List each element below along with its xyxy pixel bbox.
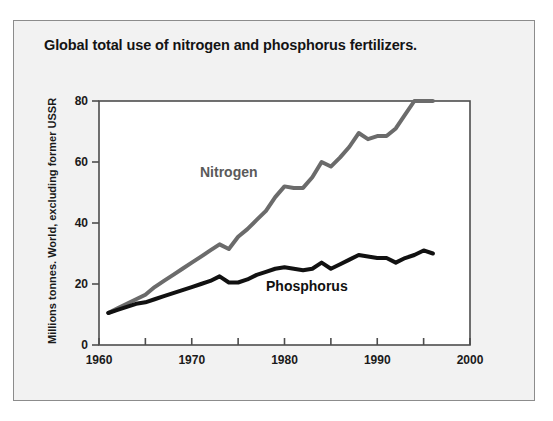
plot-area [99, 101, 470, 345]
x-tick-label: 1980 [271, 353, 298, 367]
series-label-phosphorus: Phosphorus [266, 278, 348, 294]
x-tick-label: 1970 [178, 353, 205, 367]
series-label-nitrogen: Nitrogen [200, 164, 258, 180]
x-tick-label: 1990 [364, 353, 391, 367]
y-axis-ticks [92, 101, 99, 345]
y-tick-label: 0 [0, 338, 88, 352]
y-tick-label: 60 [0, 155, 88, 169]
x-tick-label: 1960 [86, 353, 113, 367]
screenshot-root: Global total use of nitrogen and phospho… [0, 0, 553, 421]
y-tick-label: 40 [0, 216, 88, 230]
x-tick-label: 2000 [457, 353, 484, 367]
y-tick-label: 20 [0, 277, 88, 291]
y-tick-label: 80 [0, 94, 88, 108]
